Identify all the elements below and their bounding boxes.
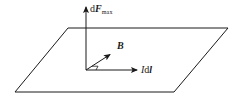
plane-parallelogram: [15, 28, 228, 92]
force-label-subscript: max: [102, 9, 113, 15]
current-element-label-main: l: [149, 64, 152, 75]
current-element-label: Idl: [141, 65, 152, 75]
force-vector-label: dFmax: [90, 4, 113, 15]
force-label-main: F: [95, 3, 102, 14]
right-angle-marker: [92, 66, 98, 70]
magnetic-field-label-main: B: [117, 40, 124, 51]
magnetic-field-vector-arrow: [86, 55, 110, 71]
magnetic-field-label: B: [117, 41, 124, 51]
force-diagram: [0, 0, 240, 104]
